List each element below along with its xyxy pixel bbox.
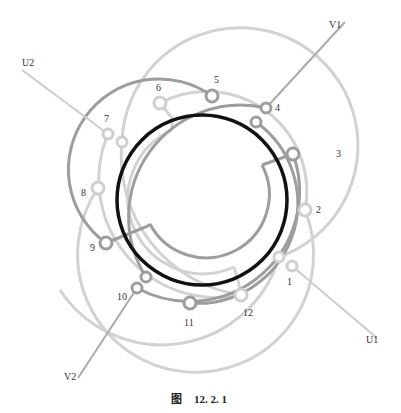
terminal-labels: 1 2 3 4 5 6 7 8 9 10 11 12 (81, 74, 341, 328)
label-1: 1 (287, 276, 292, 287)
label-3: 3 (336, 148, 341, 159)
terminal-1 (287, 261, 297, 271)
terminal-4b (251, 117, 261, 127)
label-9: 9 (90, 242, 95, 253)
rotor-circle (117, 115, 287, 285)
terminal-10 (132, 283, 142, 293)
label-v2: V2 (64, 371, 76, 382)
terminal-9 (100, 237, 112, 249)
figure-caption: 图 12. 2. 1 (171, 393, 227, 405)
terminal-10b (141, 272, 151, 282)
caption-number: 12. 2. 1 (194, 393, 227, 405)
dark-coil-near4-11 (190, 122, 298, 303)
terminal-7 (103, 129, 113, 139)
terminal-4 (261, 103, 271, 113)
stator-winding-diagram: 1 2 3 4 5 6 7 8 9 10 11 12 V1 U2 V2 U1 图… (0, 0, 401, 413)
label-5: 5 (214, 74, 219, 85)
terminal-1b (274, 252, 284, 262)
label-u2: U2 (22, 57, 34, 68)
label-11: 11 (184, 317, 194, 328)
label-4: 4 (275, 102, 280, 113)
terminal-5 (206, 90, 218, 102)
terminal-2 (299, 204, 311, 216)
label-10: 10 (117, 291, 127, 302)
terminal-3 (287, 148, 299, 160)
terminal-7b (117, 137, 127, 147)
label-12: 12 (243, 307, 253, 318)
label-2: 2 (316, 204, 321, 215)
terminal-11 (184, 297, 196, 309)
dark-coil-5-9 (68, 79, 212, 243)
lead-u2 (22, 70, 108, 134)
label-v1: V1 (329, 19, 341, 30)
label-6: 6 (156, 82, 161, 93)
terminal-6 (154, 97, 166, 109)
dark-inner-ring (150, 165, 269, 258)
label-7: 7 (104, 113, 109, 124)
terminal-8 (92, 182, 104, 194)
label-8: 8 (81, 187, 86, 198)
light-coils (60, 28, 358, 373)
terminal-12 (235, 289, 247, 301)
label-u1: U1 (366, 334, 378, 345)
dark-coil-3-10 (137, 154, 300, 301)
caption-prefix: 图 (171, 393, 182, 405)
